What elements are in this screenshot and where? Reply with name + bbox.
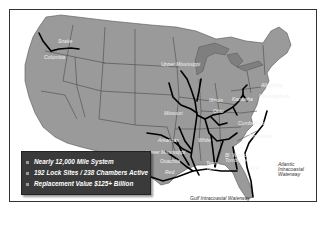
bullet-icon xyxy=(26,161,29,164)
label-missouri: Missouri xyxy=(164,111,183,116)
label-kanawha: Kanawha xyxy=(232,97,253,102)
label-tennessee: Tennessee xyxy=(248,134,272,139)
label-white: White xyxy=(198,138,211,143)
label-atlantic-intracoastal-waterway: Atlantic Intracoastal Waterway xyxy=(278,162,312,177)
label-ouachita: Ouachita xyxy=(160,159,180,164)
label-gulf-intracoastal-waterway: Gulf Intracoastal Waterway xyxy=(190,196,250,201)
label-red: Red xyxy=(165,170,174,175)
bullet-icon xyxy=(26,183,29,186)
label-upper-mississippi: Upper Mississippi xyxy=(161,62,200,67)
stats-item-value: Replacement Value $125+ Billion xyxy=(26,178,150,189)
label-tenn-tom: Tenn-Tom xyxy=(206,161,224,171)
label-acf: ACF xyxy=(249,166,259,171)
stats-item-locks: 192 Lock Sites / 238 Chambers Active xyxy=(26,167,150,178)
label-cumberland: Cumberland xyxy=(238,121,265,126)
label-snake: Snake xyxy=(58,39,72,44)
label-black-warrior-tombigbee: Bl. Warrior Tombigbee xyxy=(225,153,257,163)
label-lower-mississippi: Lower Mississippi xyxy=(146,150,185,155)
label-monongahela: Monongahela xyxy=(259,94,289,99)
stats-list: Nearly 12,000 Mile System 192 Lock Sites… xyxy=(22,152,150,189)
stats-infobox: Nearly 12,000 Mile System 192 Lock Sites… xyxy=(21,151,151,195)
label-allegheny: Allegheny xyxy=(261,83,283,88)
bullet-icon xyxy=(26,172,29,175)
label-ohio: Ohio xyxy=(213,109,224,114)
label-illinois: Illinois xyxy=(209,98,223,103)
stats-item-mileage: Nearly 12,000 Mile System xyxy=(26,156,150,167)
label-arkansas: Arkansas xyxy=(158,138,179,143)
label-columbia: Columbia xyxy=(44,55,65,60)
